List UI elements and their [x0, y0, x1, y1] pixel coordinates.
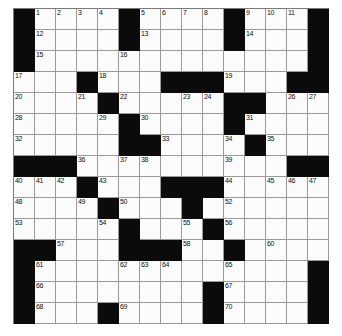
grid-open-cell[interactable]: 1 — [35, 9, 56, 30]
grid-open-cell[interactable]: 12 — [35, 30, 56, 51]
grid-open-cell[interactable] — [203, 261, 224, 282]
grid-open-cell[interactable]: 44 — [224, 177, 245, 198]
grid-open-cell[interactable] — [140, 177, 161, 198]
grid-open-cell[interactable] — [266, 219, 287, 240]
grid-open-cell[interactable]: 40 — [14, 177, 35, 198]
grid-open-cell[interactable] — [287, 282, 308, 303]
grid-open-cell[interactable]: 39 — [224, 156, 245, 177]
grid-open-cell[interactable]: 9 — [245, 9, 266, 30]
grid-open-cell[interactable]: 41 — [35, 177, 56, 198]
grid-open-cell[interactable]: 65 — [224, 261, 245, 282]
grid-open-cell[interactable] — [161, 30, 182, 51]
grid-open-cell[interactable] — [266, 93, 287, 114]
grid-open-cell[interactable]: 69 — [119, 303, 140, 324]
grid-open-cell[interactable]: 34 — [224, 135, 245, 156]
grid-open-cell[interactable] — [287, 303, 308, 324]
grid-open-cell[interactable] — [119, 282, 140, 303]
grid-open-cell[interactable] — [56, 261, 77, 282]
grid-open-cell[interactable] — [56, 198, 77, 219]
grid-open-cell[interactable]: 35 — [266, 135, 287, 156]
grid-open-cell[interactable]: 10 — [266, 9, 287, 30]
grid-open-cell[interactable]: 5 — [140, 9, 161, 30]
grid-open-cell[interactable]: 18 — [98, 72, 119, 93]
grid-open-cell[interactable]: 27 — [308, 93, 329, 114]
grid-open-cell[interactable] — [119, 72, 140, 93]
grid-open-cell[interactable] — [98, 156, 119, 177]
grid-open-cell[interactable]: 37 — [119, 156, 140, 177]
grid-open-cell[interactable] — [140, 282, 161, 303]
grid-open-cell[interactable] — [203, 51, 224, 72]
grid-open-cell[interactable] — [77, 135, 98, 156]
grid-open-cell[interactable] — [245, 51, 266, 72]
grid-open-cell[interactable] — [287, 240, 308, 261]
grid-open-cell[interactable] — [35, 135, 56, 156]
grid-open-cell[interactable] — [140, 72, 161, 93]
grid-open-cell[interactable] — [266, 72, 287, 93]
grid-open-cell[interactable] — [245, 303, 266, 324]
grid-open-cell[interactable]: 22 — [119, 93, 140, 114]
grid-open-cell[interactable] — [308, 135, 329, 156]
grid-open-cell[interactable] — [98, 30, 119, 51]
grid-open-cell[interactable] — [77, 30, 98, 51]
grid-open-cell[interactable] — [245, 72, 266, 93]
grid-open-cell[interactable] — [77, 219, 98, 240]
grid-open-cell[interactable] — [77, 303, 98, 324]
grid-open-cell[interactable] — [203, 240, 224, 261]
grid-open-cell[interactable] — [35, 198, 56, 219]
grid-open-cell[interactable]: 33 — [161, 135, 182, 156]
grid-open-cell[interactable] — [182, 30, 203, 51]
grid-open-cell[interactable] — [203, 30, 224, 51]
grid-open-cell[interactable]: 14 — [245, 30, 266, 51]
grid-open-cell[interactable]: 57 — [56, 240, 77, 261]
grid-open-cell[interactable] — [35, 72, 56, 93]
grid-open-cell[interactable] — [287, 51, 308, 72]
grid-open-cell[interactable] — [266, 198, 287, 219]
grid-open-cell[interactable] — [77, 114, 98, 135]
grid-open-cell[interactable]: 36 — [77, 156, 98, 177]
grid-open-cell[interactable]: 43 — [98, 177, 119, 198]
grid-open-cell[interactable] — [245, 156, 266, 177]
grid-open-cell[interactable]: 61 — [35, 261, 56, 282]
grid-open-cell[interactable] — [98, 282, 119, 303]
grid-open-cell[interactable] — [182, 114, 203, 135]
grid-open-cell[interactable] — [308, 240, 329, 261]
grid-open-cell[interactable] — [182, 156, 203, 177]
grid-open-cell[interactable]: 32 — [14, 135, 35, 156]
grid-open-cell[interactable] — [56, 135, 77, 156]
grid-open-cell[interactable]: 31 — [245, 114, 266, 135]
grid-open-cell[interactable]: 62 — [119, 261, 140, 282]
grid-open-cell[interactable] — [98, 51, 119, 72]
grid-open-cell[interactable] — [245, 282, 266, 303]
grid-open-cell[interactable] — [266, 156, 287, 177]
grid-open-cell[interactable] — [287, 261, 308, 282]
grid-open-cell[interactable]: 63 — [140, 261, 161, 282]
grid-open-cell[interactable]: 52 — [224, 198, 245, 219]
grid-open-cell[interactable] — [98, 261, 119, 282]
grid-open-cell[interactable] — [203, 135, 224, 156]
grid-open-cell[interactable] — [77, 240, 98, 261]
grid-open-cell[interactable] — [35, 93, 56, 114]
grid-open-cell[interactable]: 56 — [224, 219, 245, 240]
grid-open-cell[interactable] — [266, 261, 287, 282]
grid-open-cell[interactable]: 20 — [14, 93, 35, 114]
grid-open-cell[interactable] — [287, 198, 308, 219]
grid-open-cell[interactable]: 42 — [56, 177, 77, 198]
grid-open-cell[interactable]: 49 — [77, 198, 98, 219]
grid-open-cell[interactable] — [266, 303, 287, 324]
grid-open-cell[interactable] — [203, 156, 224, 177]
grid-open-cell[interactable] — [182, 135, 203, 156]
grid-open-cell[interactable]: 53 — [14, 219, 35, 240]
grid-open-cell[interactable] — [77, 282, 98, 303]
grid-open-cell[interactable] — [245, 177, 266, 198]
grid-open-cell[interactable] — [245, 261, 266, 282]
grid-open-cell[interactable]: 28 — [14, 114, 35, 135]
grid-open-cell[interactable] — [266, 51, 287, 72]
grid-open-cell[interactable]: 58 — [182, 240, 203, 261]
grid-open-cell[interactable] — [161, 156, 182, 177]
grid-open-cell[interactable] — [161, 114, 182, 135]
grid-open-cell[interactable] — [287, 135, 308, 156]
grid-open-cell[interactable] — [266, 114, 287, 135]
grid-open-cell[interactable]: 15 — [35, 51, 56, 72]
grid-open-cell[interactable] — [182, 261, 203, 282]
grid-open-cell[interactable]: 68 — [35, 303, 56, 324]
